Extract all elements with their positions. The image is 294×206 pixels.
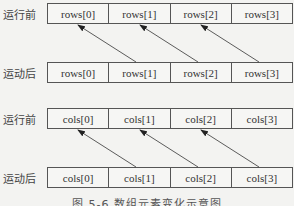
shift-arrows bbox=[0, 0, 294, 206]
arrow-icon bbox=[140, 130, 198, 167]
arrow-icon bbox=[78, 130, 136, 167]
figure-caption: 图 5-6 数组元素变化示意图 bbox=[0, 195, 294, 206]
arrow-icon bbox=[201, 130, 259, 167]
arrow-icon bbox=[201, 25, 259, 62]
arrow-icon bbox=[140, 25, 198, 62]
arrow-icon bbox=[78, 25, 136, 62]
